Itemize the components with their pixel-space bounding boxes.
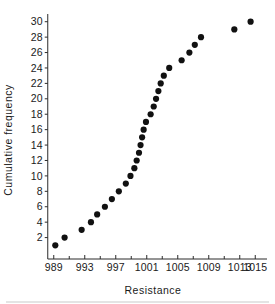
y-axis-tick-label: 6	[37, 200, 43, 212]
data-point	[127, 173, 133, 179]
y-axis-tick-label: 14	[31, 139, 43, 151]
data-point	[198, 34, 204, 40]
y-axis-tick-label: 2	[37, 231, 43, 243]
data-point	[116, 188, 122, 194]
data-point	[166, 65, 172, 71]
y-axis-tick-label: 24	[31, 62, 43, 74]
y-axis-title: Cumulative frequency	[2, 84, 14, 196]
data-point	[155, 88, 161, 94]
data-point	[136, 150, 142, 156]
data-point	[141, 127, 147, 133]
y-axis-tick-label: 20	[31, 92, 43, 104]
data-point	[79, 227, 85, 233]
chart-canvas: 24681012141618202224262830 9899939971001…	[0, 0, 275, 304]
data-point	[102, 204, 108, 210]
data-point	[139, 134, 145, 140]
y-axis-tick-group: 24681012141618202224262830	[31, 15, 48, 243]
x-axis-tick-label: 993	[76, 261, 94, 273]
data-point	[151, 103, 157, 109]
data-point	[62, 234, 68, 240]
data-point	[186, 49, 192, 55]
x-axis-tick-label: 1015	[243, 261, 267, 273]
y-axis-tick-label: 26	[31, 46, 43, 58]
y-axis-tick-label: 22	[31, 77, 43, 89]
y-axis-tick-label: 4	[37, 216, 43, 228]
data-point	[148, 111, 154, 117]
cumulative-frequency-chart: 24681012141618202224262830 9899939971001…	[0, 0, 275, 304]
y-axis-tick-label: 30	[31, 15, 43, 27]
data-point	[158, 80, 164, 86]
y-axis-tick-label: 16	[31, 123, 43, 135]
x-axis-title: Resistance	[125, 284, 182, 296]
x-axis-tick-label: 1001	[135, 261, 159, 273]
data-point	[123, 181, 129, 187]
x-axis-tick-label: 1005	[166, 261, 190, 273]
x-axis-tick-group: 98999399710011005100910131015	[45, 255, 268, 273]
data-point	[52, 242, 58, 248]
y-axis-tick-label: 10	[31, 170, 43, 182]
data-point	[134, 157, 140, 163]
data-point	[248, 19, 254, 25]
data-point	[88, 219, 94, 225]
data-point	[231, 26, 237, 32]
x-axis-tick-label: 1009	[197, 261, 221, 273]
data-point	[143, 119, 149, 125]
data-point	[131, 165, 137, 171]
y-axis-tick-label: 28	[31, 31, 43, 43]
x-axis-tick-label: 997	[107, 261, 125, 273]
data-point	[153, 96, 159, 102]
data-point	[137, 142, 143, 148]
data-point	[94, 211, 100, 217]
data-point	[192, 42, 198, 48]
y-axis-tick-label: 18	[31, 108, 43, 120]
data-point	[109, 196, 115, 202]
x-axis-tick-label: 989	[45, 261, 63, 273]
data-point	[179, 57, 185, 63]
y-axis-tick-label: 8	[37, 185, 43, 197]
data-point	[161, 73, 167, 79]
y-axis-tick-label: 12	[31, 154, 43, 166]
data-point-group	[52, 19, 254, 249]
